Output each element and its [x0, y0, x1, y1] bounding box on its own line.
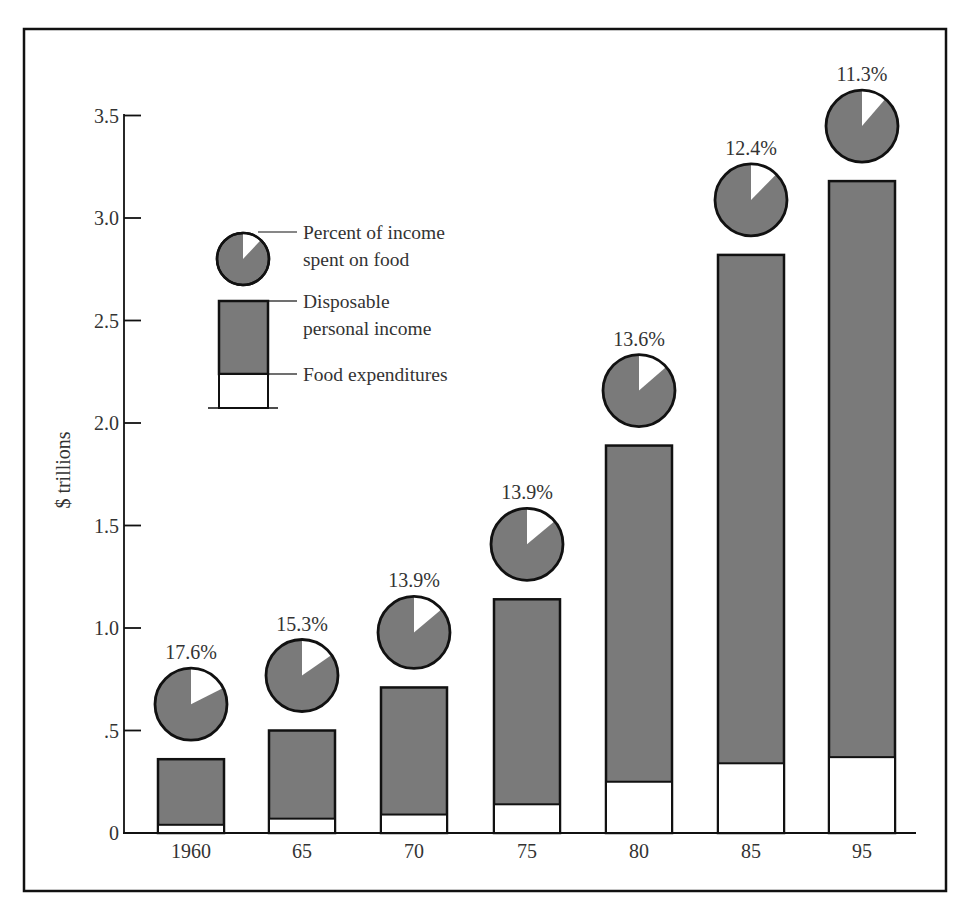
bar-group: 13.6%80 [603, 328, 675, 862]
percent-label: 17.6% [165, 641, 217, 663]
y-tick-label: 3.5 [94, 105, 119, 127]
bar-group: 17.6%1960 [155, 641, 227, 862]
x-tick-label: 1960 [171, 840, 211, 862]
percent-label: 11.3% [837, 63, 888, 85]
income-bar [381, 687, 447, 833]
bars: 17.6%196015.3%6513.9%7013.9%7513.6%8012.… [155, 63, 898, 862]
x-tick-label: 65 [292, 840, 312, 862]
y-tick-label: 0 [109, 822, 119, 844]
legend-food-symbol [219, 374, 268, 408]
legend-pie-label-1: Percent of income [303, 222, 445, 243]
x-tick-label: 85 [741, 840, 761, 862]
x-tick-label: 75 [517, 840, 537, 862]
legend-income-label-2: personal income [303, 318, 431, 339]
y-ticks: 0.51.01.52.02.53.03.5 [94, 105, 141, 845]
bar-group: 13.9%75 [491, 481, 563, 862]
percent-label: 13.9% [388, 569, 440, 591]
food-bar [269, 819, 335, 833]
income-bar [494, 599, 560, 833]
legend-food-label: Food expenditures [303, 364, 448, 385]
x-tick-label: 80 [629, 840, 649, 862]
y-tick-label: .5 [104, 720, 119, 742]
food-bar [381, 815, 447, 833]
food-bar [158, 825, 224, 833]
percent-label: 13.9% [501, 481, 553, 503]
legend-income-label-1: Disposable [303, 291, 390, 312]
legend-pie-label-2: spent on food [303, 249, 409, 270]
income-bar [158, 759, 224, 833]
bar-group: 11.3%95 [826, 63, 898, 862]
chart-canvas: $ trillions 0.51.01.52.02.53.03.5 Percen… [0, 0, 966, 905]
legend: Percent of income spent on food Disposab… [208, 222, 448, 408]
y-tick-label: 2.5 [94, 310, 119, 332]
legend-pie-symbol [217, 233, 269, 285]
food-bar [606, 782, 672, 833]
legend-income-symbol [219, 301, 268, 374]
food-bar [829, 757, 895, 833]
y-tick-label: 1.0 [94, 617, 119, 639]
x-tick-label: 70 [404, 840, 424, 862]
bar-group: 13.9%70 [378, 569, 450, 862]
income-bar [718, 255, 784, 833]
y-tick-label: 2.0 [94, 412, 119, 434]
y-tick-label: 3.0 [94, 207, 119, 229]
income-bar [606, 446, 672, 833]
percent-label: 12.4% [725, 137, 777, 159]
percent-label: 15.3% [276, 613, 328, 635]
food-bar [494, 804, 560, 833]
food-bar [718, 763, 784, 833]
percent-label: 13.6% [613, 328, 665, 350]
income-bar [829, 181, 895, 833]
bar-group: 15.3%65 [266, 613, 338, 863]
income-bar [269, 731, 335, 834]
y-axis-label: $ trillions [52, 431, 74, 508]
x-tick-label: 95 [852, 840, 872, 862]
y-tick-label: 1.5 [94, 515, 119, 537]
bar-group: 12.4%85 [715, 137, 787, 862]
